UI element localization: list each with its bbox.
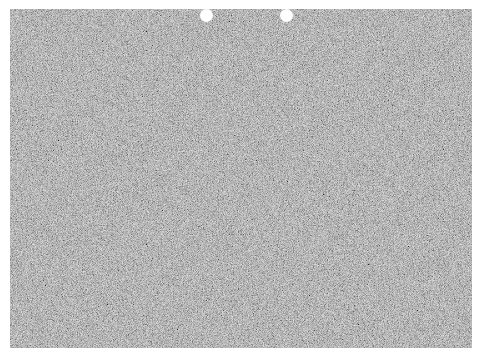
punched-hole-right: [280, 9, 293, 22]
punched-hole-left: [200, 9, 213, 22]
noise-texture: [10, 9, 472, 348]
textured-gray-sheet: [10, 9, 472, 348]
